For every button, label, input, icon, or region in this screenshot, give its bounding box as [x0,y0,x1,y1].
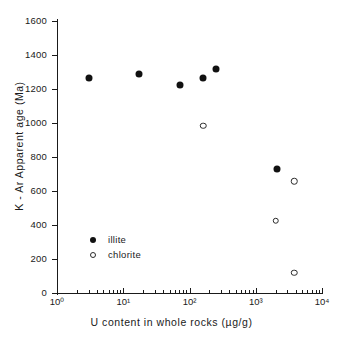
x-axis-minor-tick [302,290,303,294]
x-axis-minor-tick [221,290,222,294]
y-axis-tick-label: 200 [31,253,47,264]
x-axis-tick [190,288,191,294]
x-axis-tick [322,288,323,294]
x-axis-tick-label: 10¹ [116,296,130,307]
x-axis-minor-tick [117,290,118,294]
x-axis-minor-tick [276,290,277,294]
data-point-illite [200,74,207,81]
x-axis-minor-tick [186,290,187,294]
x-axis-minor-tick [109,290,110,294]
data-point-illite [85,74,92,81]
data-point-chlorite [200,122,207,129]
x-axis-title: U content in whole rocks (µg/g) [0,316,343,328]
x-axis-minor-tick [120,290,121,294]
legend-item-label: illite [108,234,126,245]
x-axis-minor-tick [163,290,164,294]
x-axis-minor-tick [245,290,246,294]
x-axis-minor-tick [179,290,180,294]
y-axis-tick-label: 400 [31,219,47,230]
y-axis-tick [52,89,58,90]
data-point-illite [212,65,219,72]
y-axis-tick-label: 1200 [25,83,47,94]
x-axis-minor-tick [143,290,144,294]
x-axis-tick-label: 10⁴ [315,296,330,307]
y-axis-tick [52,21,58,22]
data-point-chlorite [291,178,298,185]
legend-marker-icon [86,237,100,243]
x-axis-minor-tick [77,290,78,294]
legend-marker-icon [86,252,100,258]
data-point-chlorite [272,218,279,225]
data-point-illite [177,81,184,88]
x-axis-minor-tick [170,290,171,294]
x-axis-minor-tick [236,290,237,294]
x-axis-minor-tick [296,290,297,294]
y-axis-tick-label: 1600 [25,15,47,26]
y-axis-tick [52,259,58,260]
y-axis-tick [52,123,58,124]
x-axis-minor-tick [97,290,98,294]
x-axis-minor-tick [312,290,313,294]
y-axis-title: K - Ar Apparent age (Ma) [13,41,25,251]
data-point-chlorite [291,269,298,276]
chart-legend: illitechlorite [86,232,141,262]
x-axis-minor-tick [307,290,308,294]
legend-item-chlorite: chlorite [86,247,141,262]
x-axis-minor-tick [89,290,90,294]
y-axis-tick [52,225,58,226]
y-axis-tick [52,55,58,56]
legend-item-illite: illite [86,232,141,247]
y-axis-tick-label: 1000 [25,117,47,128]
data-point-illite [135,70,142,77]
x-axis-tick-label: 10⁰ [50,296,65,307]
x-axis-minor-tick [249,290,250,294]
x-axis-tick [123,288,124,294]
x-axis-minor-tick [229,290,230,294]
y-axis-tick-label: 800 [31,151,47,162]
scatter-chart-figure: 02004006008001000120014001600 10⁰10¹10²1… [0,0,343,344]
x-axis-tick-label: 10³ [249,296,263,307]
x-axis-minor-tick [253,290,254,294]
legend-item-label: chlorite [108,249,141,260]
x-axis-minor-tick [103,290,104,294]
x-axis-minor-tick [316,290,317,294]
x-axis-tick-label: 10² [183,296,197,307]
x-axis-tick [57,288,58,294]
y-axis-tick [52,157,58,158]
x-axis-minor-tick [287,290,288,294]
x-axis-minor-tick [241,290,242,294]
y-axis-tick [52,191,58,192]
y-axis-tick-label: 600 [31,185,47,196]
x-axis-minor-tick [175,290,176,294]
x-axis-tick [256,288,257,294]
x-axis-minor-tick [113,290,114,294]
x-axis-minor-tick [155,290,156,294]
y-axis-tick-label: 0 [42,287,47,298]
x-axis-minor-tick [183,290,184,294]
y-axis-tick-label: 1400 [25,49,47,60]
data-point-illite [274,165,281,172]
x-axis-minor-tick [209,290,210,294]
x-axis-minor-tick [319,290,320,294]
